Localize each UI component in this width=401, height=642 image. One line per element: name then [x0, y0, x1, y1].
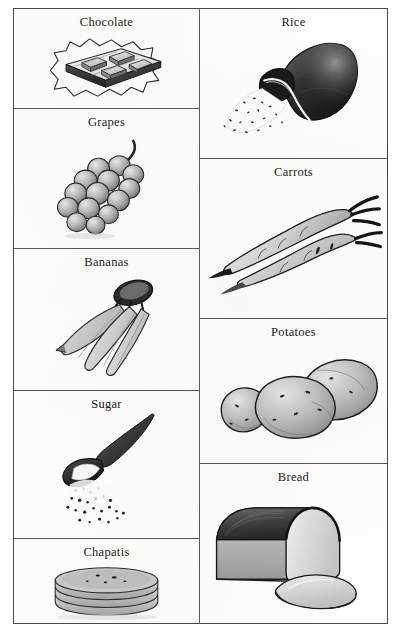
card-rice[interactable]: Rice [200, 9, 387, 159]
card-label-sugar: Sugar [14, 397, 199, 412]
figure-page: Chocolate [0, 0, 401, 642]
left-column: Chocolate [14, 9, 200, 623]
card-potatoes[interactable]: Potatoes [200, 319, 387, 464]
card-carrots[interactable]: Carrots [200, 159, 387, 319]
card-bananas[interactable]: Bananas [14, 249, 199, 391]
card-bread[interactable]: Bread [200, 464, 387, 623]
card-label-chocolate: Chocolate [14, 15, 199, 30]
card-label-chapatis: Chapatis [14, 545, 199, 560]
card-chocolate[interactable]: Chocolate [14, 9, 199, 109]
carrots-icon [200, 181, 387, 316]
bread-loaf-icon [200, 486, 387, 621]
card-sugar[interactable]: Sugar [14, 391, 199, 539]
banana-bunch-icon [14, 271, 199, 388]
potatoes-icon [200, 341, 387, 461]
card-label-rice: Rice [200, 15, 387, 30]
rice-sack-icon [200, 31, 387, 156]
food-card-grid: Chocolate [13, 8, 388, 624]
right-column: Rice [200, 9, 387, 623]
chapati-stack-icon [14, 561, 199, 621]
card-label-grapes: Grapes [14, 115, 199, 130]
card-label-potatoes: Potatoes [200, 325, 387, 340]
sugar-spoon-icon [14, 413, 199, 536]
card-label-bread: Bread [200, 470, 387, 485]
card-label-carrots: Carrots [200, 165, 387, 180]
grape-bunch-icon [14, 131, 199, 246]
card-label-bananas: Bananas [14, 255, 199, 270]
chocolate-bar-icon [14, 31, 199, 106]
card-grapes[interactable]: Grapes [14, 109, 199, 249]
card-chapatis[interactable]: Chapatis [14, 539, 199, 623]
